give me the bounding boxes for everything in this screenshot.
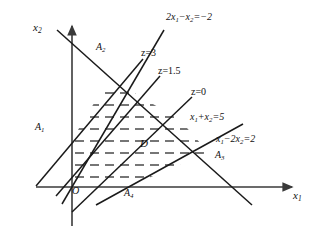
objective-line-z-3	[36, 59, 143, 186]
objective-label-z-3: z=3	[141, 48, 156, 58]
objective-label-z-1point5: z=1.5	[158, 66, 181, 76]
constraint-label-x1-plus-x2: x1+x2=5	[190, 112, 224, 123]
vertex-label-a3: A3	[215, 150, 225, 161]
x-axis-label: x1	[293, 190, 302, 202]
vertex-label-a2: A2	[96, 42, 106, 53]
vertex-label-a1: A1	[35, 122, 45, 133]
vertex-label-a4: A4	[124, 188, 134, 199]
diagram-canvas	[0, 0, 316, 232]
objective-label-z-0: z=0	[191, 87, 206, 97]
y-axis-label: x2	[33, 22, 42, 34]
constraint-label-x1-minus-2x2: x1−2x2=2	[216, 134, 255, 145]
region-label-d: D	[140, 138, 148, 149]
origin-label: O	[72, 186, 79, 196]
constraint-label-2x1-minus-x2: 2x1−x2=−2	[166, 12, 212, 23]
lp-feasible-region-figure: x2 x1 O A1 A2 A3 A4 D 2x1−x2=−2 x1+x2=5 …	[0, 0, 316, 232]
